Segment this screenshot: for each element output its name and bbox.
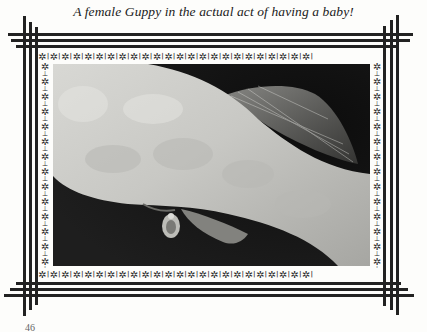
frame-left-line-3 — [35, 27, 38, 305]
ornament-star-icon: ✲ — [164, 269, 172, 280]
ornament-star-icon: ✲ — [256, 269, 264, 280]
ornament-star-icon: ✲ — [118, 269, 126, 280]
ornament-star-icon: ✲ — [199, 51, 207, 62]
ornament-star-icon: ✲ — [233, 51, 241, 62]
ornament-border-top: ✲ǀ✲ǀ✲ǀ✲ǀ✲ǀ✲ǀ✲ǀ✲ǀ✲ǀ✲ǀ✲ǀ✲ǀ✲ǀ✲ǀ✲ǀ✲ǀ✲ǀ✲ǀ✲ǀ✲ǀ… — [38, 50, 384, 62]
guppy-photo — [53, 64, 370, 266]
fish-illustration — [53, 64, 370, 266]
ornament-star-icon: ✲ — [72, 269, 80, 280]
ornament-star-icon: ✲ — [267, 51, 275, 62]
ornament-star-icon: ✲ — [176, 51, 184, 62]
page-number: 46 — [25, 322, 35, 332]
ornament-star-icon: ✲ — [187, 51, 195, 62]
frame-right-line-1 — [383, 26, 386, 306]
ornament-star-icon: ✲ — [130, 269, 138, 280]
ornament-star-icon: ✲ — [302, 51, 310, 62]
ornament-star-icon: ✲ — [38, 269, 46, 280]
ornament-separator: ⊥ — [374, 267, 380, 268]
ornament-star-icon: ✲ — [61, 51, 69, 62]
ornament-star-icon: ✲ — [233, 269, 241, 280]
ornament-star-icon: ✲ — [244, 51, 252, 62]
ornament-star-icon: ✲ — [130, 51, 138, 62]
ornament-star-icon: ✲ — [153, 51, 161, 62]
ornament-star-icon: ✲ — [244, 269, 252, 280]
ornament-star-icon: ✲ — [118, 51, 126, 62]
frame-top-line-1 — [8, 33, 413, 36]
ornament-star-icon: ✲ — [141, 51, 149, 62]
ornament-star-icon: ✲ — [61, 269, 69, 280]
ornament-star-icon: ✲ — [210, 51, 218, 62]
ornament-star-icon: ✲ — [38, 51, 46, 62]
ornament-separator: ǀ — [311, 269, 313, 280]
ornament-star-icon: ✲ — [107, 269, 115, 280]
ornament-star-icon: ✲ — [290, 269, 298, 280]
frame-right-line-2 — [390, 20, 393, 310]
caption: A female Guppy in the actual act of havi… — [0, 4, 427, 20]
ornament-border-left: ✲⊥✲⊥✲⊥✲⊥✲⊥✲⊥✲⊥✲⊥✲⊥✲⊥✲⊥✲⊥✲⊥✲⊥ — [39, 62, 51, 268]
ornament-star-icon: ✲ — [187, 269, 195, 280]
ornament-star-icon: ✲ — [279, 269, 287, 280]
ornament-star-icon: ✲ — [95, 269, 103, 280]
ornament-star-icon: ✲ — [107, 51, 115, 62]
ornament-star-icon: ✲ — [256, 51, 264, 62]
ornament-star-icon: ✲ — [49, 51, 57, 62]
frame-left-line-1 — [23, 16, 26, 316]
ornament-star-icon: ✲ — [164, 51, 172, 62]
ornament-separator: ǀ — [311, 51, 313, 62]
frame-right-line-3 — [396, 15, 399, 315]
ornament-border-bottom: ✲ǀ✲ǀ✲ǀ✲ǀ✲ǀ✲ǀ✲ǀ✲ǀ✲ǀ✲ǀ✲ǀ✲ǀ✲ǀ✲ǀ✲ǀ✲ǀ✲ǀ✲ǀ✲ǀ✲ǀ… — [38, 268, 384, 280]
ornament-star-icon: ✲ — [153, 269, 161, 280]
ornament-star-icon: ✲ — [95, 51, 103, 62]
ornament-star-icon: ✲ — [84, 51, 92, 62]
ornament-separator: ⊥ — [42, 267, 48, 268]
ornament-star-icon: ✲ — [72, 51, 80, 62]
ornament-star-icon: ✲ — [210, 269, 218, 280]
ornament-star-icon: ✲ — [302, 269, 310, 280]
ornament-star-icon: ✲ — [141, 269, 149, 280]
ornament-border-right: ✲⊥✲⊥✲⊥✲⊥✲⊥✲⊥✲⊥✲⊥✲⊥✲⊥✲⊥✲⊥✲⊥✲⊥ — [371, 62, 383, 268]
frame-bottom-line-2 — [10, 288, 408, 291]
ornament-star-icon: ✲ — [267, 269, 275, 280]
frame-left-line-2 — [29, 22, 32, 310]
frame-bottom-line-3 — [4, 294, 414, 297]
frame-top-line-3 — [16, 45, 396, 48]
frame-top-line-2 — [11, 39, 410, 42]
ornament-star-icon: ✲ — [222, 269, 230, 280]
ornament-star-icon: ✲ — [49, 269, 57, 280]
ornament-star-icon: ✲ — [290, 51, 298, 62]
frame-bottom-line-1 — [16, 282, 401, 285]
ornament-star-icon: ✲ — [222, 51, 230, 62]
ornament-star-icon: ✲ — [279, 51, 287, 62]
ornament-star-icon: ✲ — [84, 269, 92, 280]
ornament-star-icon: ✲ — [199, 269, 207, 280]
ornament-star-icon: ✲ — [176, 269, 184, 280]
